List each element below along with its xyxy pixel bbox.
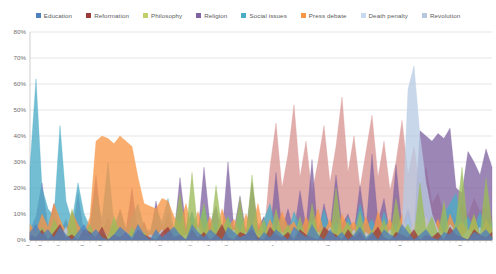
legend-item-religion[interactable]: Religion [196, 12, 227, 19]
y-axis-tick-label: 50% [14, 106, 27, 113]
x-axis-tick-label: 1845 [205, 244, 211, 246]
plot-area: 0%10%20%30%40%50%60%70%80%18291830183418… [0, 26, 496, 246]
x-axis-tick-label: 1829 [25, 244, 31, 246]
y-axis-tick-label: 30% [14, 158, 27, 165]
legend-swatch-icon [36, 13, 41, 18]
legend-item-education[interactable]: Education [36, 12, 72, 19]
legend-swatch-icon [86, 13, 91, 18]
x-axis-tick-label: 1849 [397, 244, 403, 246]
legend-item-social-issues[interactable]: Social issues [241, 12, 286, 19]
legend-swatch-icon [422, 13, 427, 18]
x-axis-tick-label: 1830 [37, 244, 43, 246]
x-axis-tick-label: 1838 [79, 244, 85, 246]
x-axis-tick-label: 1843 [157, 244, 163, 246]
y-axis-tick-label: 80% [14, 28, 27, 35]
legend-item-philosophy[interactable]: Philosophy [143, 12, 182, 19]
plot-svg: 0%10%20%30%40%50%60%70%80%18291830183418… [0, 26, 496, 246]
legend-label: Philosophy [151, 12, 182, 19]
legend-label: Reformation [94, 12, 129, 19]
legend-label: Education [44, 12, 72, 19]
x-axis-tick-label: 1846 [223, 244, 229, 246]
legend-item-press-debate[interactable]: Press debate [301, 12, 347, 19]
x-axis-tick-label: 1839 [97, 244, 103, 246]
legend-swatch-icon [241, 13, 246, 18]
y-axis-tick-label: 10% [14, 210, 27, 217]
legend-label: Death penalty [369, 12, 408, 19]
y-axis-tick-label: 60% [14, 80, 27, 87]
legend-swatch-icon [301, 13, 306, 18]
y-axis-tick-label: 40% [14, 132, 27, 139]
legend-item-death-penalty[interactable]: Death penalty [361, 12, 408, 19]
x-axis-tick-label: 1848 [325, 244, 331, 246]
legend-swatch-icon [143, 13, 148, 18]
legend-swatch-icon [361, 13, 366, 18]
legend-label: Religion [204, 12, 227, 19]
x-axis-tick-label: 1850 [457, 244, 463, 246]
legend-label: Social issues [249, 12, 286, 19]
legend-item-revolution[interactable]: Revolution [422, 12, 460, 19]
y-axis-tick-label: 70% [14, 54, 27, 61]
legend-item-reformation[interactable]: Reformation [86, 12, 129, 19]
legend-label: Revolution [430, 12, 460, 19]
area-chart: EducationReformationPhilosophyReligionSo… [0, 0, 496, 274]
x-axis-tick-label: 1844 [187, 244, 193, 246]
legend-label: Press debate [309, 12, 347, 19]
y-axis-tick-label: 20% [14, 184, 27, 191]
legend-swatch-icon [196, 13, 201, 18]
y-axis-tick-label: 0% [17, 236, 26, 243]
x-axis-tick-label: 1834 [55, 244, 61, 246]
x-axis-tick-label: 1847 [271, 244, 277, 246]
chart-legend: EducationReformationPhilosophyReligionSo… [0, 8, 496, 22]
